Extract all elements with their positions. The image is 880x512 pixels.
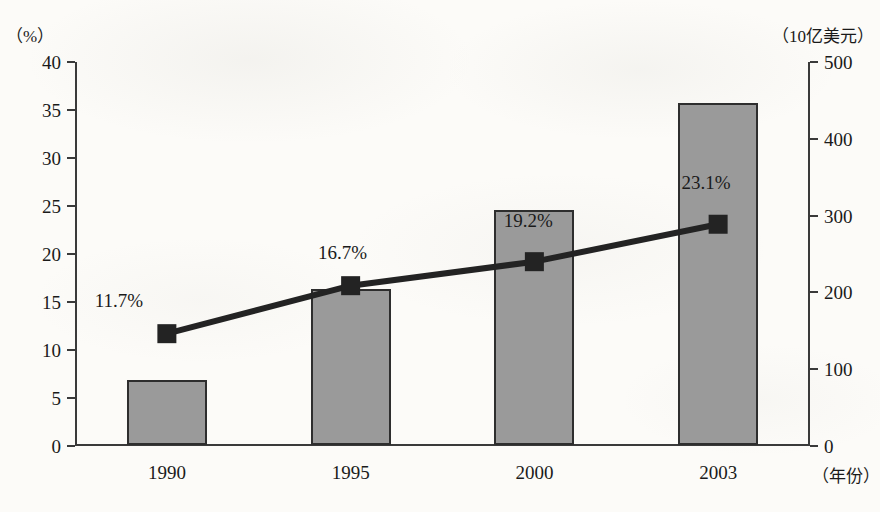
line-marker (525, 252, 544, 271)
category-label: 2000 (515, 462, 553, 484)
data-label: 19.2% (504, 210, 553, 232)
x-axis-category-labels: 1990199520002003 (75, 462, 810, 492)
line-marker (341, 276, 360, 295)
right-axis-tick-mark (810, 138, 818, 140)
left-axis-tick-label: 35 (42, 101, 61, 120)
right-axis-tick-label: 500 (824, 53, 853, 72)
left-axis-tick-mark (67, 253, 75, 255)
right-axis-tick-label: 400 (824, 129, 853, 148)
data-label: 23.1% (682, 172, 731, 194)
left-axis-tick-mark (67, 397, 75, 399)
right-axis-tick-mark (810, 215, 818, 217)
line-series (75, 62, 810, 446)
plot-area: 0510152025303540 0100200300400500 11.7%1… (75, 62, 810, 446)
right-axis-tick-mark (810, 291, 818, 293)
left-axis-tick-label: 0 (52, 437, 62, 456)
left-axis-tick-mark (67, 157, 75, 159)
category-label: 1990 (148, 462, 186, 484)
left-axis-tick-label: 25 (42, 197, 61, 216)
right-axis-tick-mark (810, 368, 818, 370)
category-label: 2003 (699, 462, 737, 484)
category-label: 1995 (332, 462, 370, 484)
left-axis-tick-mark (67, 301, 75, 303)
left-axis-tick-label: 10 (42, 341, 61, 360)
left-axis-tick-mark (67, 445, 75, 447)
line-series-svg (75, 62, 810, 446)
chart-container: （%） （10亿美元） 0510152025303540 01002003004… (0, 0, 880, 512)
left-axis-tick-label: 15 (42, 293, 61, 312)
right-axis-tick-mark (810, 445, 818, 447)
left-axis-tick-mark (67, 205, 75, 207)
left-axis-unit-label: （%） (6, 22, 54, 47)
line-path (167, 224, 718, 333)
x-axis-unit-label: （年份） (812, 462, 880, 487)
left-axis-tick-mark (67, 61, 75, 63)
data-label: 16.7% (318, 242, 367, 264)
left-axis-tick-mark (67, 109, 75, 111)
line-marker (157, 324, 176, 343)
right-axis-tick-label: 300 (824, 206, 853, 225)
left-axis-tick-label: 30 (42, 149, 61, 168)
right-axis-unit-label: （10亿美元） (772, 22, 874, 47)
left-axis-tick-mark (67, 349, 75, 351)
data-label: 11.7% (95, 290, 143, 312)
right-axis-tick-label: 100 (824, 360, 853, 379)
left-axis-tick-label: 20 (42, 245, 61, 264)
right-axis-tick-label: 200 (824, 283, 853, 302)
right-axis-tick-mark (810, 61, 818, 63)
left-axis-tick-label: 5 (52, 389, 62, 408)
right-axis-tick-label: 0 (824, 437, 834, 456)
line-marker (709, 215, 728, 234)
left-axis-tick-label: 40 (42, 53, 61, 72)
